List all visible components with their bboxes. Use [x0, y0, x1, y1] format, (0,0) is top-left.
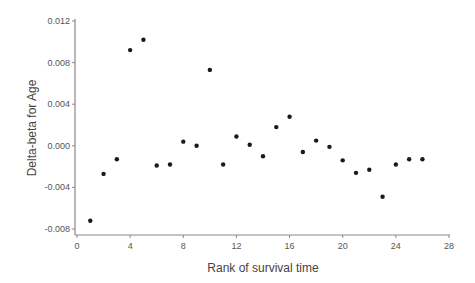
y-tick-label: 0.000: [47, 141, 70, 151]
data-point: [221, 162, 225, 166]
x-tick-label: 0: [74, 241, 79, 251]
data-point: [155, 163, 159, 167]
y-axis: -0.008-0.0040.0000.0040.0080.012: [44, 16, 75, 235]
data-point: [194, 144, 198, 148]
data-point: [248, 143, 252, 147]
data-point: [274, 125, 278, 129]
x-tick-label: 24: [391, 241, 401, 251]
data-point: [141, 38, 145, 42]
data-point: [128, 48, 132, 52]
data-point: [115, 157, 119, 161]
x-tick-label: 20: [338, 241, 348, 251]
y-tick-label: -0.004: [44, 182, 70, 192]
scatter-chart: -0.008-0.0040.0000.0040.0080.012 0481216…: [0, 0, 475, 283]
data-point: [301, 150, 305, 154]
data-point: [354, 171, 358, 175]
x-tick-label: 12: [231, 241, 241, 251]
data-point: [168, 162, 172, 166]
x-tick-label: 28: [444, 241, 454, 251]
plot-area: [88, 38, 425, 223]
x-axis-title: Rank of survival time: [207, 261, 319, 275]
data-point: [234, 134, 238, 138]
y-tick-label: 0.008: [47, 58, 70, 68]
data-point: [341, 158, 345, 162]
x-tick-label: 4: [128, 241, 133, 251]
data-point: [327, 145, 331, 149]
data-point: [287, 114, 291, 118]
data-point: [420, 157, 424, 161]
data-point: [380, 195, 384, 199]
y-tick-label: -0.008: [44, 224, 70, 234]
y-axis-title: Delta-beta for Age: [25, 79, 39, 176]
data-point: [181, 139, 185, 143]
y-tick-label: 0.004: [47, 99, 70, 109]
data-point: [407, 157, 411, 161]
data-point: [314, 138, 318, 142]
data-point: [261, 154, 265, 158]
data-point: [367, 168, 371, 172]
y-tick-label: 0.012: [47, 16, 70, 26]
x-tick-label: 8: [181, 241, 186, 251]
x-tick-label: 16: [285, 241, 295, 251]
data-point: [394, 162, 398, 166]
data-point: [88, 218, 92, 222]
data-point: [208, 68, 212, 72]
x-axis: 0481216202428: [74, 235, 454, 251]
data-point: [101, 172, 105, 176]
